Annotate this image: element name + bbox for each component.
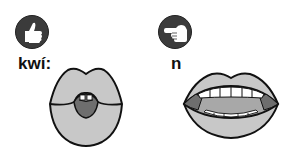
rounded-lips-illustration xyxy=(46,66,126,148)
pointing-left-icon xyxy=(158,15,192,49)
open-mouth-illustration xyxy=(182,70,280,142)
phoneme-label: n xyxy=(171,55,181,73)
thumbs-up-icon xyxy=(15,15,49,49)
